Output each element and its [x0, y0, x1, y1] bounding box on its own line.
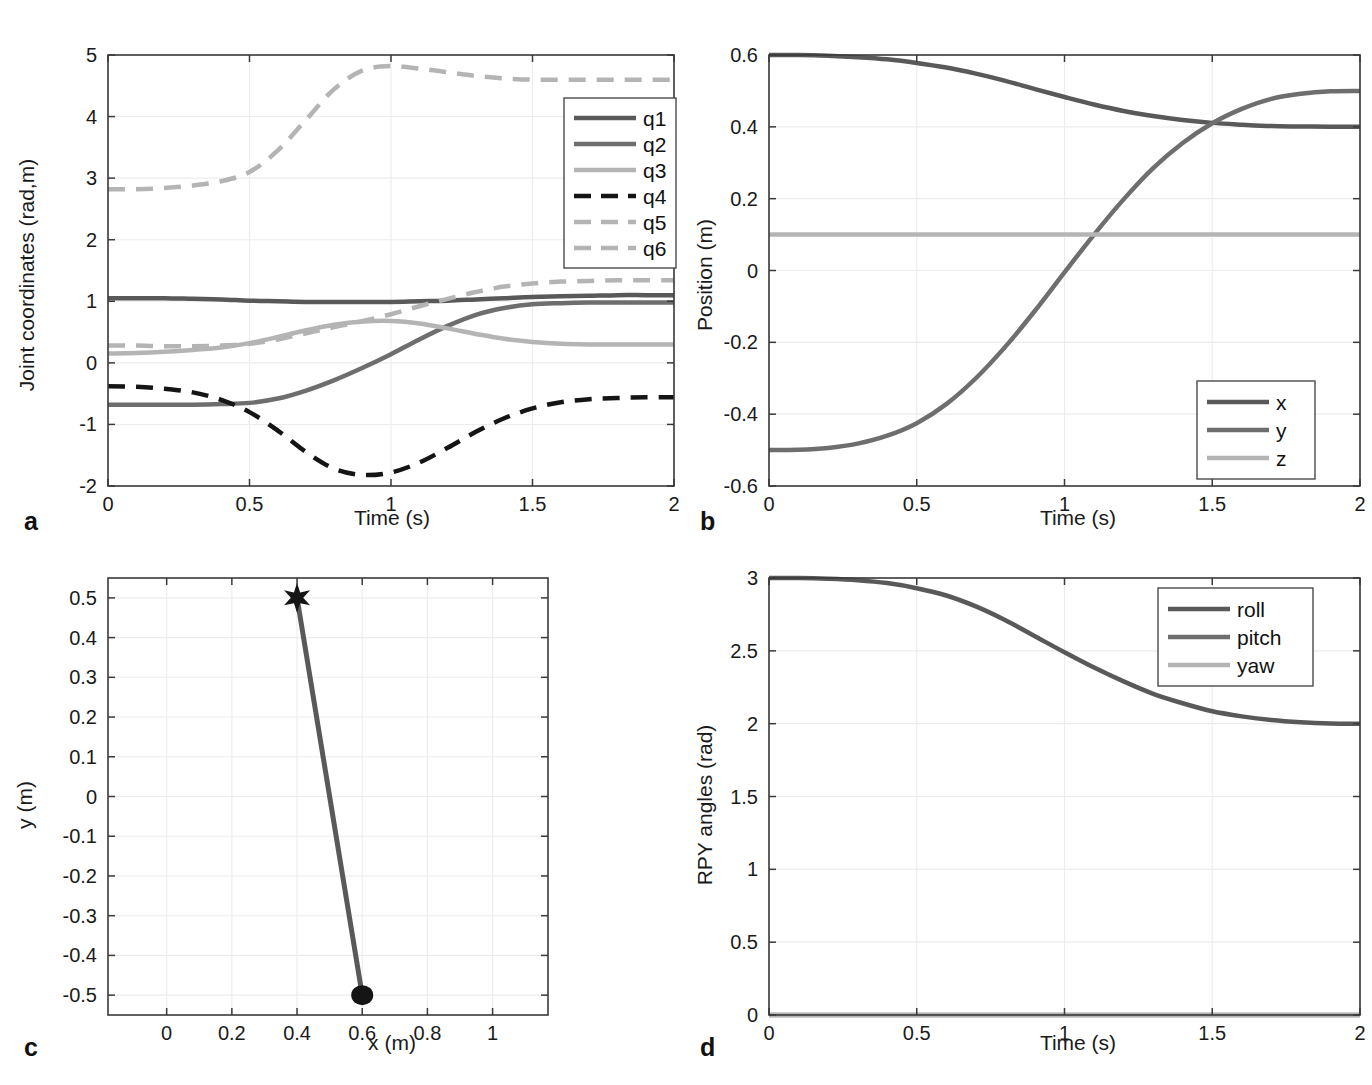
x-tick-label: 0.8 [414, 1022, 442, 1044]
x-tick-label: 0 [763, 1022, 774, 1044]
y-tick-label: 0.5 [69, 587, 97, 609]
legend-label-x[interactable]: x [1276, 391, 1287, 414]
panel-d: 00.511.522.5300.511.52 Time (s) RPY angl… [686, 543, 1372, 1085]
legend-label-pitch[interactable]: pitch [1237, 626, 1281, 649]
panel-d-xlabel: Time (s) [1040, 1031, 1116, 1054]
y-tick-label: 3 [747, 567, 758, 589]
y-tick-label: 0 [86, 786, 97, 808]
y-tick-label: 1 [86, 290, 97, 312]
x-tick-label: 0.2 [218, 1022, 246, 1044]
y-tick-label: 0.5 [730, 931, 758, 953]
legend-label-q3[interactable]: q3 [643, 159, 666, 182]
y-tick-label: 0.1 [69, 746, 97, 768]
panel-a: -2-101234500.511.52 Time (s) Joint coord… [0, 0, 686, 543]
y-tick-label: 0 [747, 1004, 758, 1026]
panel-d-ylabel: RPY angles (rad) [693, 725, 716, 886]
y-tick-label: 0.6 [730, 44, 758, 66]
y-tick-label: 4 [86, 106, 97, 128]
panel-d-svg: 00.511.522.5300.511.52 Time (s) RPY angl… [686, 543, 1372, 1085]
x-tick-label: 0.5 [236, 493, 264, 515]
panel-d-tag: d [700, 1033, 715, 1061]
x-tick-label: 2 [1354, 493, 1365, 515]
y-tick-label: 0.2 [730, 188, 758, 210]
figure-canvas: -2-101234500.511.52 Time (s) Joint coord… [0, 0, 1372, 1085]
y-tick-label: -0.2 [724, 331, 758, 353]
y-tick-label: 0.2 [69, 706, 97, 728]
y-tick-label: 1 [747, 858, 758, 880]
panel-b-legend[interactable]: xyz [1197, 381, 1315, 479]
x-tick-label: 0 [763, 493, 774, 515]
legend-label-z[interactable]: z [1276, 447, 1287, 470]
panel-c-tag: c [24, 1033, 38, 1061]
x-tick-label: 2 [668, 493, 679, 515]
legend-label-q6[interactable]: q6 [643, 237, 666, 260]
panel-a-svg: -2-101234500.511.52 Time (s) Joint coord… [0, 0, 686, 543]
panel-a-legend[interactable]: q1q2q3q4q5q6 [564, 98, 676, 268]
panel-a-tag: a [24, 507, 39, 535]
x-tick-label: 0.4 [283, 1022, 311, 1044]
legend-label-q2[interactable]: q2 [643, 133, 666, 156]
y-tick-label: -0.2 [63, 865, 97, 887]
panel-c-ticklabels: -0.5-0.4-0.3-0.2-0.100.10.20.30.40.500.2… [63, 587, 499, 1045]
y-tick-label: -2 [79, 475, 97, 497]
goal-circle-marker [351, 985, 373, 1005]
panel-a-xlabel: Time (s) [354, 506, 430, 529]
panel-d-legend[interactable]: rollpitchyaw [1158, 588, 1313, 686]
legend-label-q5[interactable]: q5 [643, 211, 666, 234]
x-tick-label: 0.5 [903, 493, 931, 515]
x-tick-label: 0 [102, 493, 113, 515]
x-tick-label: 0.5 [903, 1022, 931, 1044]
panel-a-ylabel: Joint coordinates (rad,m) [15, 159, 38, 391]
y-tick-label: -0.6 [724, 475, 758, 497]
x-tick-label: 1.5 [1198, 1022, 1226, 1044]
y-tick-label: -0.5 [63, 984, 97, 1006]
legend-label-y[interactable]: y [1276, 419, 1287, 442]
legend-label-yaw[interactable]: yaw [1237, 654, 1275, 677]
x-tick-label: 1.5 [519, 493, 547, 515]
panel-c-xlabel: x (m) [368, 1031, 416, 1054]
panel-b-svg: -0.6-0.4-0.200.20.40.600.511.52 Time (s)… [686, 0, 1372, 543]
legend-label-q1[interactable]: q1 [643, 107, 666, 130]
x-tick-label: 2 [1354, 1022, 1365, 1044]
legend-label-roll[interactable]: roll [1237, 598, 1265, 621]
x-tick-label: 1.5 [1198, 493, 1226, 515]
panel-b-tag: b [700, 507, 715, 535]
y-tick-label: -0.4 [724, 403, 758, 425]
y-tick-label: 3 [86, 167, 97, 189]
panel-c: -0.5-0.4-0.3-0.2-0.100.10.20.30.40.500.2… [0, 543, 686, 1085]
y-tick-label: -0.4 [63, 944, 97, 966]
x-tick-label: 1 [487, 1022, 498, 1044]
legend-label-q4[interactable]: q4 [643, 185, 667, 208]
panel-b-xlabel: Time (s) [1040, 506, 1116, 529]
y-tick-label: 2 [86, 229, 97, 251]
panel-c-svg: -0.5-0.4-0.3-0.2-0.100.10.20.30.40.500.2… [0, 543, 686, 1085]
panel-c-ylabel: y (m) [13, 781, 36, 829]
y-tick-label: 2 [747, 713, 758, 735]
x-tick-label: 0 [161, 1022, 172, 1044]
y-tick-label: 2.5 [730, 640, 758, 662]
y-tick-label: 0.4 [69, 627, 97, 649]
y-tick-label: 5 [86, 44, 97, 66]
y-tick-label: 0 [86, 352, 97, 374]
y-tick-label: 0.3 [69, 666, 97, 688]
y-tick-label: 0 [747, 260, 758, 282]
y-tick-label: 1.5 [730, 786, 758, 808]
panel-b: -0.6-0.4-0.200.20.40.600.511.52 Time (s)… [686, 0, 1372, 543]
y-tick-label: -0.3 [63, 905, 97, 927]
y-tick-label: -1 [79, 413, 97, 435]
panel-b-ylabel: Position (m) [693, 219, 716, 331]
y-tick-label: 0.4 [730, 116, 758, 138]
y-tick-label: -0.1 [63, 825, 97, 847]
